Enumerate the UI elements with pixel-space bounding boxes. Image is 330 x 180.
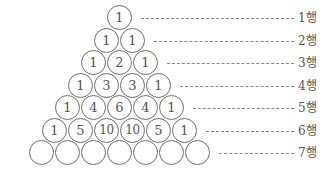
cell-r7-c2 xyxy=(55,140,80,165)
cell-r6-c3: 10 xyxy=(94,118,119,143)
row-leader-line xyxy=(154,41,294,42)
row-label: 2행 xyxy=(298,35,317,47)
row-label: 3행 xyxy=(298,57,317,69)
cell-r6-c6: 1 xyxy=(172,118,197,143)
cell-r5-c2: 4 xyxy=(81,95,106,120)
row-leader-line xyxy=(167,63,294,64)
cell-r3-c2: 2 xyxy=(107,50,132,75)
cell-r7-c6 xyxy=(159,140,184,165)
cell-r6-c1: 1 xyxy=(42,118,67,143)
row-leader-line xyxy=(219,153,294,154)
cell-r7-c3 xyxy=(81,140,106,165)
cell-r5-c4: 4 xyxy=(133,95,158,120)
row-leader-line xyxy=(180,86,294,87)
cell-r5-c1: 1 xyxy=(55,95,80,120)
cell-r7-c4 xyxy=(107,140,132,165)
cell-r2-c2: 1 xyxy=(120,28,145,53)
row-label: 1행 xyxy=(298,12,317,24)
cell-r3-c1: 1 xyxy=(81,50,106,75)
cell-r1-c1: 1 xyxy=(107,5,132,30)
cell-r5-c3: 6 xyxy=(107,95,132,120)
row-label: 5행 xyxy=(298,102,317,114)
row-label: 7행 xyxy=(298,147,317,159)
cell-r7-c5 xyxy=(133,140,158,165)
cell-r6-c5: 5 xyxy=(146,118,171,143)
cell-r4-c1: 1 xyxy=(68,73,93,98)
cell-r3-c3: 1 xyxy=(133,50,158,75)
row-label: 6행 xyxy=(298,125,317,137)
cell-r2-c1: 1 xyxy=(94,28,119,53)
cell-r4-c3: 3 xyxy=(120,73,145,98)
cell-r4-c4: 1 xyxy=(146,73,171,98)
row-leader-line xyxy=(141,18,294,19)
cell-r6-c4: 10 xyxy=(120,118,145,143)
cell-r6-c2: 5 xyxy=(68,118,93,143)
row-label: 4행 xyxy=(298,80,317,92)
cell-r4-c2: 3 xyxy=(94,73,119,98)
cell-r7-c1 xyxy=(29,140,54,165)
pascal-triangle-diagram: 11행112행1213행13314행146415행151010516행7행 xyxy=(0,0,330,180)
cell-r5-c5: 1 xyxy=(159,95,184,120)
cell-r7-c7 xyxy=(185,140,210,165)
row-leader-line xyxy=(193,108,294,109)
row-leader-line xyxy=(206,131,294,132)
